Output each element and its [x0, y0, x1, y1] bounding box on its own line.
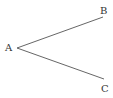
ray-ac [17, 48, 104, 79]
angle-diagram: A B C [0, 0, 113, 98]
ray-ab [17, 17, 103, 48]
point-label-c: C [101, 83, 109, 94]
point-label-b: B [100, 5, 107, 16]
vertex-label-a: A [4, 42, 13, 53]
